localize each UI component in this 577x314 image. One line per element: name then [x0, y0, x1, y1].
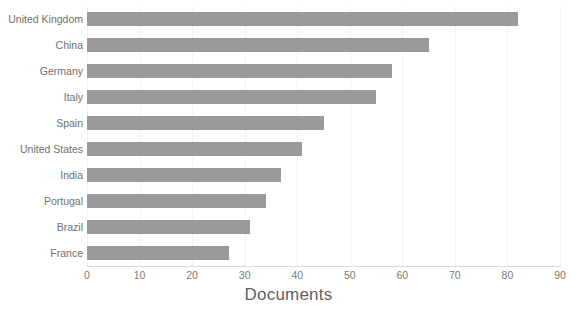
bar-chart: Documents United KingdomChinaGermanyItal… [0, 0, 577, 314]
bar [87, 220, 250, 234]
bar-row [87, 240, 560, 266]
bar-row [87, 214, 560, 240]
x-tick-label: 30 [239, 269, 251, 282]
x-axis-title: Documents [0, 285, 577, 305]
category-label: Germany [0, 64, 83, 78]
category-label: Italy [0, 90, 83, 104]
bar-row [87, 6, 560, 32]
x-tick-label: 10 [134, 269, 146, 282]
bar-row [87, 110, 560, 136]
x-tick-label: 60 [396, 269, 408, 282]
category-label: Spain [0, 116, 83, 130]
category-label: China [0, 38, 83, 52]
bar-row [87, 58, 560, 84]
x-tick-label: 90 [554, 269, 566, 282]
x-tick-label: 70 [449, 269, 461, 282]
bar [87, 90, 376, 104]
category-label: Portugal [0, 194, 83, 208]
bar-row [87, 32, 560, 58]
bar [87, 246, 229, 260]
x-tick-label: 50 [344, 269, 356, 282]
gridline [560, 6, 561, 266]
x-tick-label: 0 [84, 269, 90, 282]
bar-row [87, 136, 560, 162]
category-label: United States [0, 142, 83, 156]
bar-row [87, 188, 560, 214]
bar-row [87, 84, 560, 110]
bar [87, 194, 266, 208]
bar [87, 168, 281, 182]
x-tick-label: 80 [502, 269, 514, 282]
x-axis-line [87, 266, 561, 267]
bar [87, 12, 518, 26]
bar [87, 64, 392, 78]
x-tick-label: 40 [291, 269, 303, 282]
bar [87, 142, 302, 156]
x-tick-label: 20 [186, 269, 198, 282]
category-label: France [0, 246, 83, 260]
bar-row [87, 162, 560, 188]
bar [87, 38, 429, 52]
bar [87, 116, 324, 130]
category-label: Brazil [0, 220, 83, 234]
category-label: India [0, 168, 83, 182]
category-label: United Kingdom [0, 12, 83, 26]
